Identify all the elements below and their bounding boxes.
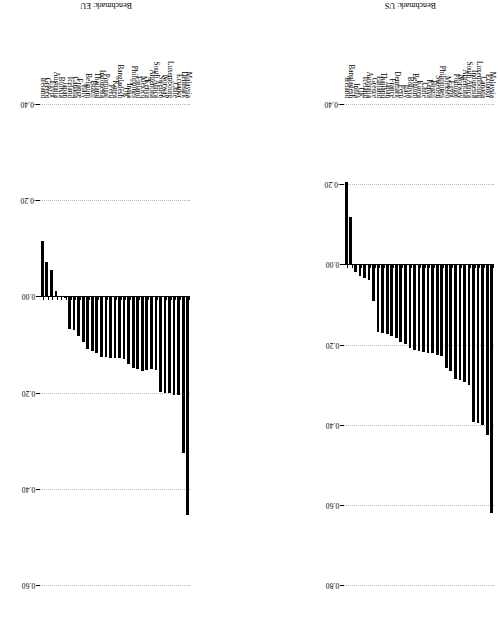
category-tick	[465, 264, 466, 268]
category-tick	[125, 296, 126, 300]
category-tick	[98, 296, 99, 300]
category-tick	[393, 264, 394, 268]
category-tick	[406, 264, 407, 268]
category-tick	[461, 264, 462, 268]
category-tick	[434, 264, 435, 268]
panel-title-eu: Benchmark: EU	[80, 1, 132, 10]
category-tick	[116, 296, 117, 300]
axis-tick-label: -0.20	[20, 196, 36, 205]
bar-denmark	[182, 296, 185, 452]
bar-malaysia	[186, 296, 189, 515]
bar-argentina	[150, 296, 153, 368]
category-tick	[475, 264, 476, 268]
category-tick	[180, 296, 181, 300]
bar-norway	[164, 296, 167, 392]
category-tick	[420, 264, 421, 268]
category-tick	[134, 296, 135, 300]
category-tick	[102, 296, 103, 300]
category-label-ireland: Ireland	[39, 78, 47, 98]
bar-canada	[73, 296, 76, 330]
bar-belgium	[413, 264, 416, 349]
category-tick	[479, 264, 480, 268]
bar-mexico	[141, 296, 144, 371]
bar-iceland	[68, 296, 71, 329]
bar-norway	[459, 264, 462, 379]
bar-greece	[372, 264, 375, 301]
category-tick	[111, 296, 112, 300]
category-tick	[456, 264, 457, 268]
bar-mexico	[445, 264, 448, 367]
gridline-060	[344, 505, 494, 506]
axis-tick-label: 0.20	[326, 340, 340, 349]
category-tick	[130, 296, 131, 300]
axis-tick-label: -0.20	[324, 180, 340, 189]
bar-bolivia	[409, 264, 412, 347]
category-tick	[384, 264, 385, 268]
bar-denmark	[395, 264, 398, 337]
bar-brazil	[431, 264, 434, 353]
axis-tick	[36, 296, 40, 297]
category-tick	[166, 296, 167, 300]
bar-chile	[422, 264, 425, 351]
category-tick	[121, 296, 122, 300]
category-tick	[484, 264, 485, 268]
bar-brazil	[91, 296, 94, 350]
bar-portugal	[105, 296, 108, 357]
bar-sweden	[436, 264, 439, 354]
category-tick	[143, 296, 144, 300]
bar-malaysia	[490, 264, 493, 513]
category-tick	[161, 296, 162, 300]
axis-tick-label: 0.20	[22, 388, 36, 397]
bar-uk	[123, 296, 126, 359]
bar-south-africa	[468, 264, 471, 384]
category-tick	[388, 264, 389, 268]
category-tick	[66, 296, 67, 300]
category-tick	[375, 264, 376, 268]
bar-korea	[418, 264, 421, 350]
axis-tick	[340, 184, 344, 185]
gridline-040	[344, 104, 494, 105]
category-tick	[175, 296, 176, 300]
bar-chile	[173, 296, 176, 395]
axis-tick-label: 0.40	[326, 420, 340, 429]
category-tick	[80, 296, 81, 300]
bar-indonesia	[472, 264, 475, 422]
category-tick	[57, 296, 58, 300]
gridline-020	[344, 184, 494, 185]
category-tick	[443, 264, 444, 268]
category-tick	[488, 264, 489, 268]
category-tick	[411, 264, 412, 268]
category-tick	[157, 296, 158, 300]
bar-philippines	[440, 264, 443, 355]
gridline-080	[344, 585, 494, 586]
category-tick	[470, 264, 471, 268]
category-tick	[438, 264, 439, 268]
bar-egypt	[50, 270, 53, 296]
gridline-040	[344, 425, 494, 426]
bar-india	[127, 296, 130, 363]
category-tick	[184, 296, 185, 300]
axis-tick-label: 0.80	[326, 581, 340, 590]
axis-tick	[340, 505, 344, 506]
bar-peru	[109, 296, 112, 358]
axis-tick	[36, 200, 40, 201]
category-tick	[89, 296, 90, 300]
bar-belgium	[86, 296, 89, 349]
bar-argentina	[463, 264, 466, 381]
category-tick	[356, 264, 357, 268]
axis-tick	[340, 345, 344, 346]
bar-bangladesh	[349, 217, 352, 264]
category-tick	[402, 264, 403, 268]
category-tick	[347, 264, 348, 268]
bar-kenya	[145, 296, 148, 369]
category-tick	[52, 296, 53, 300]
bar-france	[77, 296, 80, 335]
axis-tick	[340, 585, 344, 586]
bar-south-africa	[155, 296, 158, 369]
category-tick	[71, 296, 72, 300]
category-tick	[370, 264, 371, 268]
category-tick	[139, 296, 140, 300]
bar-canada	[481, 264, 484, 424]
axis-tick	[340, 425, 344, 426]
